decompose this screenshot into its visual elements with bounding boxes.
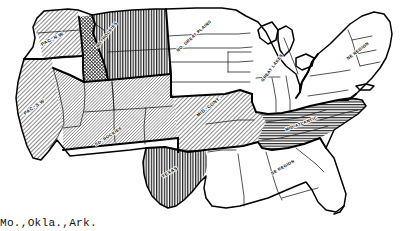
caption-text-block: Mo.,Okla.,Ark. z.,Colo.,New Mex.,Utah. l… — [0, 183, 260, 231]
caption-line-1: Mo.,Okla.,Ark. — [0, 215, 260, 231]
